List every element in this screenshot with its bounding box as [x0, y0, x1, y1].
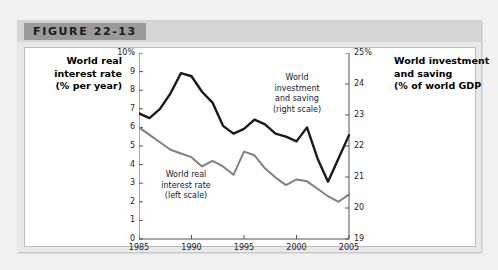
figure-page: FIGURE 22-13 World realinterest rate(% p…: [0, 0, 498, 270]
left-axis-tick-label: 7: [111, 104, 135, 113]
left-axis-tick-label: 4: [111, 160, 135, 169]
right-axis-tick-label: 20: [354, 203, 378, 212]
left-axis-tick-label: 1: [111, 215, 135, 224]
right-axis-tick-label: 24: [354, 79, 378, 88]
left-axis-tick-label: 2: [111, 197, 135, 206]
left-axis-tick-label: 0: [111, 234, 135, 243]
right-axis-title: World investmentand saving(% of world GD…: [394, 55, 498, 93]
x-axis-tick-label: 1990: [175, 243, 209, 252]
chart-plot-area: [139, 53, 350, 240]
right-axis-tick-label: 22: [354, 141, 378, 150]
figure-number-tab: FIGURE 22-13: [24, 23, 146, 40]
right-axis-tick-label: 23: [354, 110, 378, 119]
left-axis-tick-label: 5: [111, 141, 135, 150]
left-axis-tick-label: 10%: [111, 48, 135, 57]
x-axis-tick-label: 2005: [332, 243, 366, 252]
left-axis-tick-label: 3: [111, 178, 135, 187]
series-line-interest-rate: [139, 127, 349, 201]
left-axis-tick-label: 6: [111, 122, 135, 131]
series-line-investment-saving: [139, 73, 349, 181]
x-axis-tick-label: 2000: [280, 243, 314, 252]
figure-number-label: FIGURE 22-13: [24, 23, 146, 40]
right-axis-tick-label: 25%: [354, 48, 378, 57]
left-axis-tick-label: 8: [111, 85, 135, 94]
right-axis-tick-label: 21: [354, 172, 378, 181]
right-axis-tick-label: 19: [354, 234, 378, 243]
x-axis-tick-label: 1985: [122, 243, 156, 252]
left-axis-tick-label: 9: [111, 67, 135, 76]
left-axis-title: World realinterest rate(% per year): [30, 55, 122, 93]
x-axis-tick-label: 1995: [227, 243, 261, 252]
chart-svg: [139, 53, 350, 240]
